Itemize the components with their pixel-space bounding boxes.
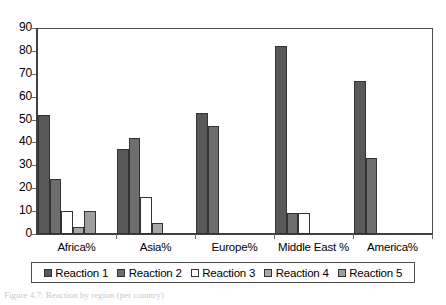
bar-group [354, 28, 433, 234]
y-axis-tick-mark [31, 188, 36, 189]
x-axis-tick-label: Africa% [37, 240, 116, 254]
y-axis-tick-label: 70 [10, 67, 32, 79]
legend-item[interactable]: Reaction 5 [338, 267, 402, 279]
y-axis-tick-mark [31, 142, 36, 143]
bar [117, 149, 129, 234]
y-axis-tick-mark [31, 211, 36, 212]
legend-label: Reaction 2 [129, 267, 182, 279]
bar-chart: 9080706050403020100 Africa%Asia%Europe%M… [0, 6, 446, 256]
bar [196, 113, 208, 234]
legend-swatch-icon [264, 269, 272, 277]
bar [208, 126, 220, 234]
bar [61, 211, 73, 234]
bar [366, 158, 378, 234]
x-axis-tick-mark [195, 234, 196, 239]
legend-swatch-icon [117, 269, 125, 277]
legend-label: Reaction 1 [55, 267, 108, 279]
y-axis-tick-label: 60 [10, 90, 32, 102]
x-axis-tick-label: Europe% [195, 240, 274, 254]
bar [73, 227, 85, 234]
bar [129, 138, 141, 234]
x-axis-tick-mark [353, 234, 354, 239]
bar [152, 223, 164, 234]
bar [354, 81, 366, 234]
y-axis-tick-mark [31, 97, 36, 98]
legend-item[interactable]: Reaction 1 [44, 267, 108, 279]
y-axis-tick-label: 40 [10, 135, 32, 147]
bar [50, 179, 62, 234]
y-axis-tick-mark [31, 120, 36, 121]
y-axis-tick-mark [31, 165, 36, 166]
legend-swatch-icon [338, 269, 346, 277]
chart-legend: Reaction 1Reaction 2Reaction 3Reaction 4… [31, 262, 415, 283]
legend-item[interactable]: Reaction 4 [264, 267, 328, 279]
legend-item[interactable]: Reaction 2 [117, 267, 181, 279]
x-axis-tick-mark [116, 234, 117, 239]
y-axis-tick-label: 90 [10, 21, 32, 33]
x-axis-tick-mark [432, 234, 433, 239]
y-axis-tick-label: 30 [10, 158, 32, 170]
x-axis-tick-labels: Africa%Asia%Europe%Middle East %America% [37, 240, 433, 256]
bar [38, 115, 50, 234]
y-axis-tick-label: 10 [10, 204, 32, 216]
bar [298, 213, 310, 234]
x-axis-tick-label: Asia% [116, 240, 195, 254]
y-axis-tick-label: 50 [10, 113, 32, 125]
bar-group [117, 28, 196, 234]
x-axis-tick-mark [274, 234, 275, 239]
y-axis-tick-label: 0 [10, 227, 32, 239]
x-axis-tick-label: America% [353, 240, 432, 254]
y-axis-tick-label: 20 [10, 181, 32, 193]
legend-label: Reaction 4 [276, 267, 329, 279]
y-axis-tick-mark [31, 74, 36, 75]
bar [275, 46, 287, 234]
bars-layer [38, 28, 433, 234]
bar-group [196, 28, 275, 234]
y-axis-tick-mark [31, 234, 36, 235]
y-axis-tick-labels: 9080706050403020100 [10, 27, 32, 241]
legend-label: Reaction 5 [349, 267, 402, 279]
legend-swatch-icon [191, 269, 199, 277]
y-axis-tick-mark [31, 28, 36, 29]
bar [287, 213, 299, 234]
bar [140, 197, 152, 234]
legend-swatch-icon [44, 269, 52, 277]
legend-label: Reaction 3 [202, 267, 255, 279]
bar-group [38, 28, 117, 234]
bar [84, 211, 96, 234]
legend-item[interactable]: Reaction 3 [191, 267, 255, 279]
figure-container: 9080706050403020100 Africa%Asia%Europe%M… [0, 0, 446, 305]
x-axis-tick-label: Middle East % [274, 240, 353, 254]
y-axis-tick-label: 80 [10, 44, 32, 56]
figure-caption: Figure 4.7: Reaction by region (per coun… [4, 290, 434, 301]
y-axis-tick-mark [31, 51, 36, 52]
bar-group [275, 28, 354, 234]
